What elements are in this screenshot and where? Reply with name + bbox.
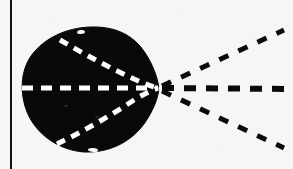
figure-svg (0, 0, 293, 169)
figure-canvas (0, 0, 293, 169)
speck-interior-b (95, 116, 99, 118)
ray-convergence-point (158, 86, 161, 89)
speck-interior-a (64, 105, 68, 107)
